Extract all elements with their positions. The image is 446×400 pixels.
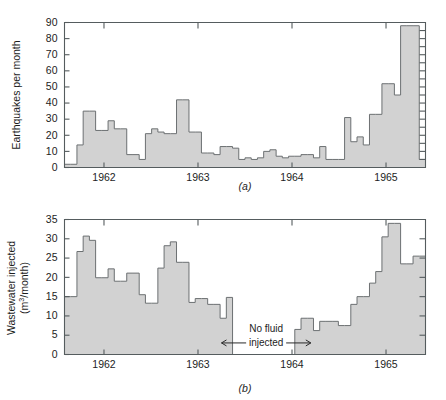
svg-text:5: 5 [52,328,58,340]
svg-text:90: 90 [46,16,58,28]
svg-text:0: 0 [52,348,58,360]
svg-text:20: 20 [46,271,58,283]
panel-a-y-ticks-right [420,31,426,160]
earthquake-histogram-bars [65,26,426,168]
panel-b-y-axis-title-line2: (m3/month) [18,262,30,314]
svg-text:0: 0 [52,161,58,173]
figure-root: 0102030405060708090 1962196319641965 Ear… [0,0,446,400]
svg-text:30: 30 [46,112,58,124]
svg-text:1965: 1965 [374,358,398,370]
panel-b-y-axis-title: Wastewater injected (m3/month) [5,241,30,335]
panel-b-x-tick-labels: 1962196319641965 [92,358,398,370]
svg-text:35: 35 [46,213,58,225]
svg-text:60: 60 [46,64,58,76]
wastewater-histogram-bars [65,223,426,354]
panel-b-y-tick-labels: 05101520253035 [46,213,58,360]
svg-text:15: 15 [46,290,58,302]
svg-text:1962: 1962 [92,358,116,370]
panel-a: 0102030405060708090 1962196319641965 Ear… [10,16,426,192]
svg-text:40: 40 [46,96,58,108]
svg-text:25: 25 [46,251,58,263]
panel-b-label: (b) [239,382,252,394]
two-panel-histogram-figure: 0102030405060708090 1962196319641965 Ear… [0,0,446,400]
panel-a-y-axis-title: Earthquakes per month [10,40,22,149]
svg-text:1964: 1964 [280,358,304,370]
annotation-line2: injected [249,337,283,348]
panel-a-bars-group [65,26,426,168]
panel-a-y-ticks [65,23,70,168]
svg-text:70: 70 [46,48,58,60]
panel-b-bars-group [65,223,426,354]
svg-text:80: 80 [46,32,58,44]
svg-text:10: 10 [46,145,58,157]
svg-text:1962: 1962 [92,171,116,183]
svg-text:20: 20 [46,129,58,141]
svg-text:1964: 1964 [280,171,304,183]
panel-b-y-axis-title-line1: Wastewater injected [5,241,17,335]
svg-text:50: 50 [46,80,58,92]
panel-b: 05101520253035 1962196319641965 Wastewat… [5,213,426,394]
svg-text:1963: 1963 [186,171,210,183]
ylabel-units-pre: (m [18,301,30,313]
ylabel-units-post: /month) [18,262,30,298]
annotation-line1: No fluid [249,323,283,334]
panel-a-y-tick-labels: 0102030405060708090 [46,16,58,173]
panel-a-label: (a) [239,180,252,192]
svg-text:1965: 1965 [374,171,398,183]
svg-text:1963: 1963 [186,358,210,370]
svg-text:30: 30 [46,232,58,244]
svg-text:10: 10 [46,309,58,321]
